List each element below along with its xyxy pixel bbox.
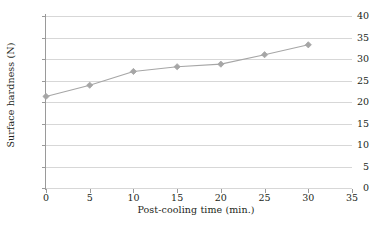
data-point-marker (305, 42, 311, 48)
x-tick-label: 15 (162, 192, 192, 203)
x-tick-label: 35 (337, 192, 367, 203)
data-point-marker (261, 52, 267, 58)
data-point-marker (43, 93, 49, 99)
gridline (46, 188, 352, 189)
data-point-marker (87, 82, 93, 88)
x-tick-label: 5 (75, 192, 105, 203)
data-point-marker (130, 68, 136, 74)
y-axis-title: Surface hardness (N) (4, 0, 18, 190)
x-tick-label: 0 (31, 192, 61, 203)
x-tick-label: 10 (118, 192, 148, 203)
x-tick-label: 30 (293, 192, 323, 203)
x-tick-label: 25 (250, 192, 280, 203)
data-point-marker (218, 61, 224, 67)
data-point-marker (174, 64, 180, 70)
data-series-line (46, 16, 352, 188)
x-tick-label: 20 (206, 192, 236, 203)
x-axis-title: Post-cooling time (min.) (40, 203, 352, 216)
series-polyline (46, 45, 308, 97)
line-chart: Surface hardness (N) 0510152025303540 05… (0, 0, 369, 228)
series-markers (43, 42, 311, 100)
